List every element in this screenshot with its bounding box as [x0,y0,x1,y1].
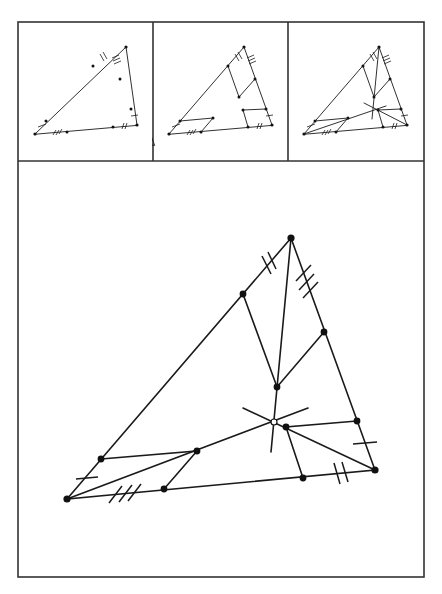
main-construction [63,234,378,503]
main-points [63,234,378,502]
parallelogram-b [243,294,324,387]
vertex-a [63,495,70,502]
panel-1 [19,23,152,160]
vertex-c [371,466,378,473]
tick-marks [76,252,377,503]
construction-figure [0,0,442,594]
panel-2 [167,45,273,135]
panel-3 [302,45,408,135]
parallelogram-c [286,421,357,478]
main-triangle [67,238,375,499]
vertex-b [287,234,294,241]
parallelogram-a [101,451,197,489]
center-point [271,419,277,425]
